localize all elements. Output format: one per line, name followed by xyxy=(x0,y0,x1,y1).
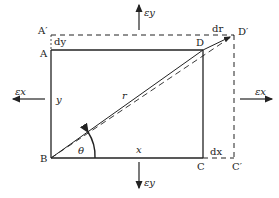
label-A-prime: A′ xyxy=(38,26,48,36)
label-A: A xyxy=(40,49,47,59)
label-ex-right: εx xyxy=(255,87,266,97)
label-ey-bottom: εy xyxy=(144,178,155,188)
diagonal-r xyxy=(51,50,203,158)
label-dx: dx xyxy=(210,147,222,157)
label-C: C xyxy=(197,162,205,172)
label-ey-top: εy xyxy=(144,8,155,18)
diagonal-r-deformed xyxy=(51,35,234,158)
label-D-prime: D′ xyxy=(238,27,248,37)
label-B: B xyxy=(40,154,47,164)
label-dy: dy xyxy=(54,37,66,47)
theta-arc xyxy=(88,132,95,158)
label-dr: dr xyxy=(212,24,223,34)
label-y: y xyxy=(56,95,62,105)
label-theta: θ xyxy=(78,146,84,156)
label-x: x xyxy=(136,145,142,155)
label-C-prime: C′ xyxy=(232,162,242,172)
label-ex-left: εx xyxy=(15,87,26,97)
label-r: r xyxy=(122,91,127,101)
dr-arrow xyxy=(203,37,230,50)
label-D: D xyxy=(196,38,204,48)
